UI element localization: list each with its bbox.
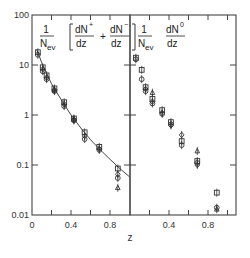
- term-denominator: dz: [111, 38, 122, 49]
- panel-formula: 1NevdN+dz+dN−dz: [40, 21, 135, 52]
- chart: 00.40.81NevdN+dz+dN−dz 0.40.81NevdN0dz 1…: [0, 0, 250, 258]
- term-superscript: 0: [180, 21, 184, 28]
- formula-operator: +: [100, 31, 106, 42]
- y-tick-label: 10: [19, 60, 29, 70]
- x-tick-label: 0.8: [104, 220, 117, 230]
- formula-subscript: ev: [145, 43, 153, 52]
- term-denominator: dz: [167, 38, 178, 49]
- x-tick-label: 0.8: [202, 220, 215, 230]
- x-tick-label: 0.4: [163, 220, 176, 230]
- term-numerator: dN: [75, 24, 88, 35]
- term-numerator: dN: [166, 24, 179, 35]
- panel-charged: 00.40.81NevdN+dz+dN−dz: [29, 15, 135, 230]
- term-numerator: dN: [110, 24, 123, 35]
- y-tick-label: 0.01: [11, 210, 29, 220]
- x-tick-label: 0.4: [65, 220, 78, 230]
- y-tick-label: 100: [14, 10, 29, 20]
- x-axis-label: z: [128, 232, 133, 243]
- formula-numerator: 1: [141, 24, 147, 35]
- term-superscript: +: [89, 21, 93, 28]
- y-tick-label: 0.1: [16, 160, 29, 170]
- fit-curve: [37, 50, 130, 177]
- term-denominator: dz: [76, 38, 87, 49]
- term-superscript: −: [124, 21, 128, 28]
- x-tick-label: 0: [29, 220, 34, 230]
- y-tick-label: 1: [24, 110, 29, 120]
- formula-subscript: ev: [47, 43, 55, 52]
- panel-formula: 1NevdN0dz: [138, 21, 185, 52]
- bracket-left: [70, 24, 73, 50]
- panel-neutral: 0.40.81NevdN0dz: [130, 15, 236, 230]
- bracket-right: [132, 24, 135, 50]
- formula-numerator: 1: [43, 24, 49, 35]
